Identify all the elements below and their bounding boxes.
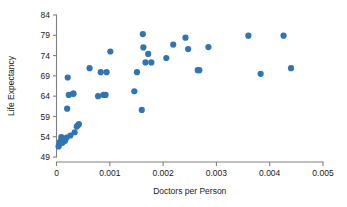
data-point	[98, 69, 104, 75]
data-point	[280, 33, 286, 39]
x-axis-title: Doctors per Person	[153, 186, 226, 196]
data-point	[95, 93, 101, 99]
data-point	[70, 91, 76, 97]
data-point	[196, 67, 202, 73]
data-point	[140, 31, 146, 37]
plot-canvas: 4954596469747984 00.0010.0020.0030.0040.…	[0, 0, 347, 207]
y-tick-group: 4954596469747984	[41, 10, 57, 162]
y-tick-label: 59	[41, 112, 51, 122]
data-point	[245, 33, 251, 39]
data-point	[205, 44, 211, 50]
data-point	[139, 107, 145, 113]
x-tick-label: 0.005	[312, 168, 334, 178]
x-tick-label: 0	[54, 168, 59, 178]
scatter-plot-figure: 4954596469747984 00.0010.0020.0030.0040.…	[0, 0, 347, 207]
data-point	[134, 69, 140, 75]
x-tick-label: 0.002	[152, 168, 174, 178]
data-point	[107, 48, 113, 54]
data-point	[65, 74, 71, 80]
y-tick-label: 64	[41, 91, 51, 101]
data-point	[72, 129, 78, 135]
data-point	[182, 35, 188, 41]
data-point-group	[56, 31, 295, 150]
x-tick-label: 0.001	[99, 168, 121, 178]
data-point	[64, 106, 70, 112]
y-tick-label: 49	[41, 152, 51, 162]
data-point	[185, 46, 191, 52]
data-point	[163, 55, 169, 61]
y-axis-title: Life Expectancy	[6, 55, 16, 116]
x-tick-label: 0.004	[259, 168, 281, 178]
y-tick-label: 84	[41, 10, 51, 20]
data-point	[140, 44, 146, 50]
data-point	[288, 65, 294, 71]
y-tick-label: 54	[41, 132, 51, 142]
data-point	[258, 71, 264, 77]
data-point	[102, 92, 108, 98]
y-tick-label: 79	[41, 30, 51, 40]
x-tick-label: 0.003	[206, 168, 228, 178]
data-point	[145, 51, 151, 57]
data-point	[170, 42, 176, 48]
data-point	[86, 65, 92, 71]
data-point	[131, 88, 137, 94]
y-tick-label: 69	[41, 71, 51, 81]
data-point	[142, 59, 148, 65]
data-point	[76, 121, 82, 127]
data-point	[104, 69, 110, 75]
data-point	[148, 59, 154, 65]
y-tick-label: 74	[41, 51, 51, 61]
x-tick-group: 00.0010.0020.0030.0040.005	[54, 162, 334, 178]
